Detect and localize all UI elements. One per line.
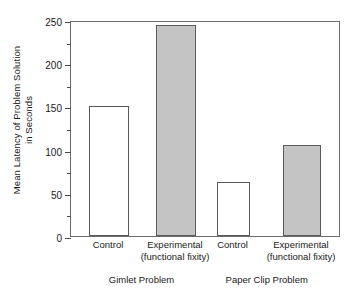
y-axis-tick (65, 108, 71, 109)
x-axis-label-line1: Experimental (273, 239, 328, 250)
y-axis-tick-label: 100 (32, 146, 62, 157)
x-axis-label-4: Experimental(functional fixity) (241, 239, 361, 263)
x-axis-label-line2: (functional fixity) (241, 251, 361, 263)
y-axis-tick (65, 65, 71, 66)
bar-4 (283, 145, 321, 236)
y-axis-tick-label: 200 (32, 60, 62, 71)
y-axis-minor-tick (67, 87, 71, 88)
x-axis-labels: ControlExperimental(functional fixity)Co… (70, 239, 340, 273)
bar-3 (217, 182, 250, 236)
bar-2 (156, 25, 196, 236)
y-axis-minor-tick (67, 44, 71, 45)
x-axis-label-line2: (functional fixity) (115, 251, 235, 263)
bar-chart-figure: Mean Latency of Problem Solution in Seco… (0, 0, 362, 300)
plot-area: 050100150200250 (70, 21, 340, 237)
y-axis-tick-label: 250 (32, 17, 62, 28)
y-axis-tick-label: 50 (32, 189, 62, 200)
y-axis-minor-tick (67, 216, 71, 217)
y-axis-title-line1: Mean Latency of Problem Solution (11, 46, 23, 194)
x-axis-group-labels: Gimlet ProblemPaper Clip Problem (70, 274, 340, 294)
y-axis-tick (65, 195, 71, 196)
bar-1 (89, 106, 129, 236)
group-label-2: Paper Clip Problem (197, 274, 337, 285)
y-axis-tick (65, 152, 71, 153)
y-axis-minor-tick (67, 130, 71, 131)
y-axis-title: Mean Latency of Problem Solution in Seco… (0, 0, 46, 240)
y-axis-minor-tick (67, 173, 71, 174)
group-label-1: Gimlet Problem (72, 274, 212, 285)
y-axis-tick-label: 150 (32, 103, 62, 114)
y-axis-tick (65, 22, 71, 23)
